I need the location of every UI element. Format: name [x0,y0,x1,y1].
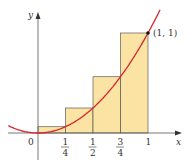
tick-one: 1 [146,137,152,147]
tick-three-quarters: 3 4 [116,137,124,158]
riemann-diagram: y x 0 (1, 1) 1 4 1 2 3 4 1 [0,0,191,168]
svg-text:4: 4 [63,148,69,158]
svg-text:4: 4 [118,148,124,158]
tick-half: 1 2 [89,137,97,158]
riemann-rectangles [38,33,148,133]
origin-label: 0 [28,137,34,147]
x-axis-label: x [176,137,181,147]
y-axis-arrow-icon [36,12,41,19]
point-label: (1, 1) [153,28,177,38]
tick-quarter: 1 4 [61,137,69,158]
point-1-1 [146,31,150,35]
svg-text:1: 1 [90,137,96,147]
riemann-rectangle [121,33,149,133]
svg-text:2: 2 [90,148,96,158]
y-axis-label: y [27,10,34,20]
svg-text:3: 3 [118,137,124,147]
svg-text:1: 1 [63,137,69,147]
x-axis-arrow-icon [175,131,182,136]
